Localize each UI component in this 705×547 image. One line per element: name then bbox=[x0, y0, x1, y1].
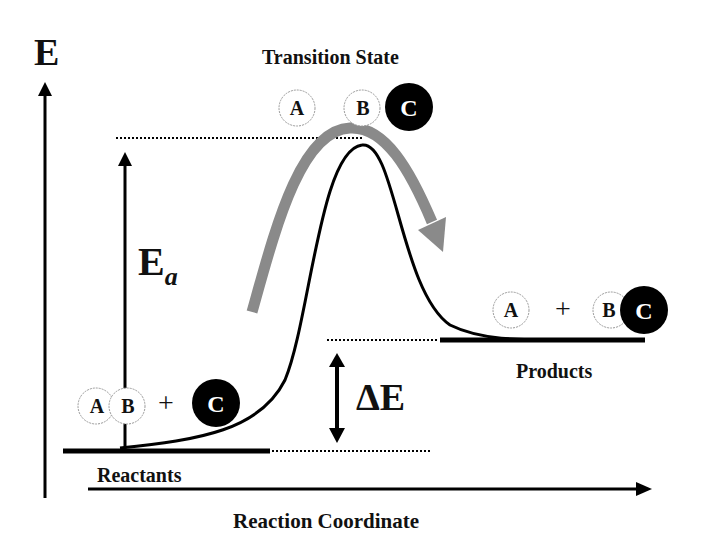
transition-state-atoms: A B C bbox=[279, 83, 433, 131]
energy-diagram: E Reaction Coordinate Reactants Products… bbox=[0, 0, 705, 547]
atom-a: A bbox=[290, 97, 305, 119]
delta-energy-label: ΔE bbox=[356, 376, 405, 418]
atom-b: B bbox=[356, 97, 369, 119]
atom-a: A bbox=[90, 395, 105, 417]
product-atoms: A + B C bbox=[493, 286, 668, 334]
energy-curve bbox=[120, 145, 560, 448]
reactant-atoms: A B + C bbox=[78, 379, 240, 427]
products-label: Products bbox=[516, 360, 593, 382]
plus-sign: + bbox=[158, 387, 174, 418]
reaction-path-arrow bbox=[252, 128, 446, 312]
y-axis-label: E bbox=[34, 31, 59, 73]
x-axis-label: Reaction Coordinate bbox=[233, 509, 419, 533]
y-axis bbox=[38, 82, 52, 498]
plus-sign: + bbox=[555, 293, 571, 324]
atom-c: C bbox=[207, 391, 224, 417]
transition-state-label: Transition State bbox=[262, 46, 399, 68]
atom-a: A bbox=[504, 299, 519, 321]
delta-energy-arrow bbox=[329, 353, 345, 443]
reactants-label: Reactants bbox=[97, 464, 182, 486]
atom-b: B bbox=[602, 299, 615, 321]
atom-c: C bbox=[400, 95, 417, 121]
atom-c: C bbox=[635, 298, 652, 324]
atom-b: B bbox=[121, 395, 134, 417]
activation-energy-label: Ea bbox=[138, 239, 178, 291]
